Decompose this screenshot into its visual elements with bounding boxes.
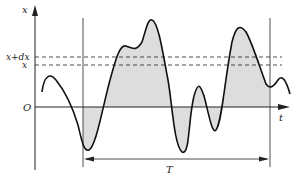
- origin-label: O: [23, 102, 31, 113]
- interval-arrow-left-icon: [84, 157, 94, 162]
- interval-label: T: [166, 164, 174, 175]
- t-axis-arrow-icon: [278, 104, 290, 110]
- random-signal-diagram: x t O x+dx x T: [0, 0, 296, 181]
- y-axis-label: x: [22, 4, 28, 15]
- t-axis-label: t: [279, 112, 284, 123]
- interval-arrow-right-icon: [259, 157, 269, 162]
- level-x-label: x: [22, 60, 27, 70]
- y-axis-arrow-icon: [32, 5, 38, 16]
